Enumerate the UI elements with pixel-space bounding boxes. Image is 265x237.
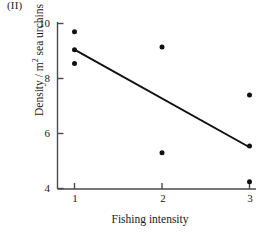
data-point bbox=[72, 29, 77, 34]
y-tick-label-4: 4 bbox=[30, 182, 50, 194]
regression-trendline bbox=[75, 50, 250, 148]
data-point bbox=[72, 61, 77, 66]
x-tick-label-1: 1 bbox=[65, 192, 85, 204]
data-point bbox=[247, 93, 252, 98]
data-point-group bbox=[72, 29, 252, 184]
data-point bbox=[247, 179, 252, 184]
data-point bbox=[160, 150, 165, 155]
x-tick-label-3: 3 bbox=[240, 192, 260, 204]
y-axis-title-suffix: sea urchins bbox=[33, 4, 45, 58]
y-axis-title: Density / m2 sea urchins bbox=[33, 0, 45, 140]
x-tick-label-2: 2 bbox=[153, 192, 173, 204]
y-axis-title-prefix: Density / m bbox=[33, 62, 45, 116]
y-axis-title-superscript: 2 bbox=[31, 58, 40, 62]
x-axis-title: Fishing intensity bbox=[40, 213, 260, 225]
data-point bbox=[72, 47, 77, 52]
data-point bbox=[160, 44, 165, 49]
figure-panel: (II) 10 8 6 4 1 2 3 Density / m2 sea urc… bbox=[0, 0, 265, 237]
y-axis-ticks bbox=[58, 24, 64, 189]
data-point bbox=[247, 143, 252, 148]
x-axis-ticks bbox=[75, 183, 250, 189]
